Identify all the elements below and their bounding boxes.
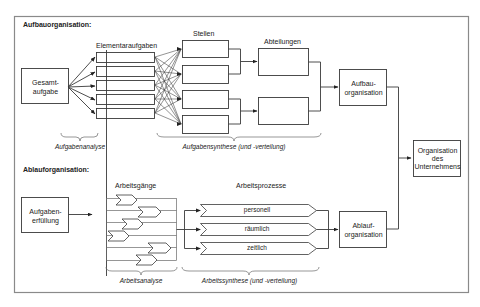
- aufgabenerfuellung-line-1: Aufgaben-: [29, 207, 61, 216]
- arbeitsgaenge-to-processes: [177, 209, 202, 251]
- ablauforganisation-line-2: organisation: [344, 230, 382, 239]
- abteilungen-header: Abteilungen: [264, 38, 301, 46]
- ablauf-section-title: Ablauforganisation:: [23, 166, 89, 174]
- abteilungen-boxes: [259, 49, 309, 125]
- final-line-1: Organisation: [418, 147, 458, 155]
- aufgabenanalyse-brace: [61, 133, 98, 141]
- aufgabenanalyse-label: Aufgabenanalyse: [50, 143, 110, 151]
- arbeitsgaenge-chevrons: [108, 195, 171, 265]
- aufbauorganisation-label: Aufbau- organisation: [340, 70, 387, 106]
- abteilungen-to-aufbau: [309, 62, 339, 111]
- process-raeumlich-label: räumlich: [206, 225, 308, 233]
- synthesis-crosslinks: [155, 49, 181, 124]
- organisation-des-unternehmens-label: Organisation des Unternehmens: [414, 141, 461, 177]
- arbeitssynthese-brace: [182, 267, 319, 275]
- aufgabenerfuellung-line-2: erfüllung: [32, 216, 59, 225]
- processes-to-ablauf: [317, 211, 339, 249]
- stellen-header: Stellen: [193, 30, 214, 38]
- arbeitsanalyse-brace: [106, 267, 177, 275]
- aufbau-to-final-line: [387, 87, 412, 158]
- process-zeitlich-label: zeitlich: [206, 244, 308, 252]
- final-line-2: des: [432, 155, 443, 163]
- elementaraufgaben-header: Elementaraufgaben: [96, 42, 157, 50]
- organization-diagram: [0, 0, 480, 307]
- stellen-arrowheads: [177, 47, 182, 126]
- aufbauorganisation-line-2: organisation: [344, 88, 382, 97]
- aufgabensynthese-brace: [157, 133, 321, 141]
- arbeitssynthese-label: Arbeitssynthese (und -verteilung): [192, 277, 307, 285]
- stellen-boxes: [183, 41, 229, 134]
- stellen-to-abteilungen: [229, 49, 258, 124]
- aufbau-section-title: Aufbauorganisation:: [23, 21, 91, 29]
- aufbauorganisation-line-1: Aufbau-: [351, 79, 376, 88]
- gesamtaufgabe-line-1: Gesamt-: [32, 78, 59, 87]
- process-personell-label: personell: [206, 206, 308, 214]
- arbeitsprozesse-header: Arbeitsprozesse: [236, 182, 286, 190]
- arbeitsanalyse-label: Arbeitsanalyse: [111, 277, 171, 285]
- ablauforganisation-line-1: Ablauf-: [352, 221, 374, 230]
- gesamtaufgabe-label: Gesamt- aufgabe: [22, 69, 69, 104]
- final-line-3: Unternehmens: [415, 163, 461, 171]
- elementary-task-boxes: [97, 53, 155, 119]
- aufgabenerfuellung-label: Aufgaben- erfüllung: [22, 198, 69, 233]
- ablauforganisation-label: Ablauf- organisation: [340, 212, 387, 248]
- aufgabensynthese-label: Aufgabensynthese (und -verteilung): [174, 143, 294, 151]
- gesamtaufgabe-line-2: aufgabe: [33, 87, 58, 96]
- arbeitsgaenge-header: Arbeitsgänge: [115, 182, 156, 190]
- analysis-fan-arrows: [68, 57, 95, 114]
- ablauf-to-final-line: [387, 158, 399, 229]
